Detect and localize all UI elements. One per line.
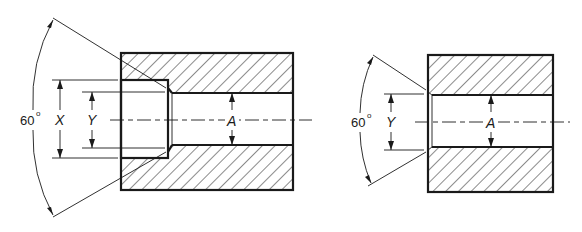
technical-drawing: 60 o X Y A	[0, 0, 582, 232]
left-upper-hatch	[121, 53, 293, 93]
svg-text:o: o	[36, 109, 41, 118]
right-angle-label: 60	[351, 115, 365, 130]
left-section-view: 60 o X Y A	[20, 18, 312, 217]
left-dim-x-label: X	[54, 112, 65, 128]
svg-text:o: o	[367, 111, 372, 120]
right-upper-hatch	[428, 55, 553, 95]
left-angle-label: 60	[20, 113, 34, 128]
left-dim-y-label: Y	[87, 112, 98, 128]
right-bore-a-label: A	[485, 115, 495, 131]
right-dim-y-label: Y	[386, 114, 397, 130]
left-bore-a-label: A	[226, 113, 236, 129]
right-lower-hatch	[428, 147, 553, 192]
right-section-view: 60 o Y A	[351, 55, 570, 192]
left-lower-hatch	[121, 145, 293, 190]
